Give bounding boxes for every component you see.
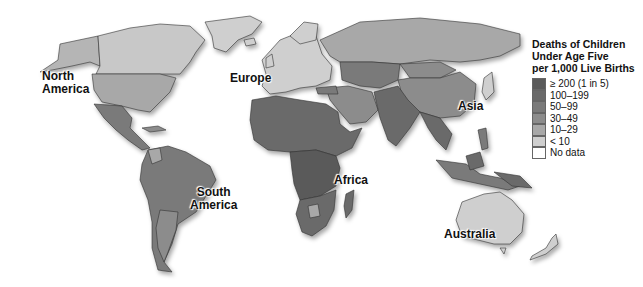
canada	[96, 24, 205, 74]
philippines	[478, 128, 488, 150]
legend-swatch	[532, 124, 546, 136]
label-line: Australia	[444, 228, 495, 241]
legend-item: 30–49	[532, 113, 643, 125]
iceland	[244, 38, 256, 46]
tasmania	[500, 248, 506, 254]
turkey	[316, 86, 338, 94]
legend-title-line: per 1,000 Live Births	[532, 62, 643, 74]
legend-item: < 10	[532, 136, 643, 148]
label-north-america: North America	[42, 70, 89, 96]
label-asia: Asia	[458, 100, 483, 113]
legend-label: 100–199	[550, 90, 589, 101]
legend-title-line: Deaths of Children	[532, 38, 643, 50]
botswana	[308, 204, 320, 218]
legend: Deaths of Children Under Age Five per 1,…	[532, 38, 643, 159]
madagascar	[344, 190, 354, 218]
label-africa: Africa	[334, 174, 368, 187]
greenland	[205, 16, 262, 52]
legend-label: 50–99	[550, 101, 578, 112]
caribbean	[142, 126, 166, 132]
legend-swatch	[532, 78, 546, 90]
legend-item: 10–29	[532, 124, 643, 136]
central-asia	[340, 62, 400, 88]
legend-swatch	[532, 147, 546, 159]
label-line: America	[190, 199, 237, 212]
label-europe: Europe	[230, 72, 271, 85]
legend-item: 50–99	[532, 101, 643, 113]
legend-title: Deaths of Children Under Age Five per 1,…	[532, 38, 643, 74]
legend-label: 10–29	[550, 124, 578, 135]
japan	[482, 72, 494, 100]
label-australia: Australia	[444, 228, 495, 241]
legend-item: ≥ 200 (1 in 5)	[532, 78, 643, 90]
legend-label: No data	[550, 147, 585, 158]
legend-label: < 10	[550, 136, 570, 147]
russia	[320, 18, 520, 64]
label-line: Europe	[230, 72, 271, 85]
label-line: Africa	[334, 174, 368, 187]
se-asia	[420, 112, 452, 150]
label-south-america: South America	[190, 186, 237, 212]
legend-swatch	[532, 101, 546, 113]
new-zealand	[530, 234, 558, 260]
legend-swatch	[532, 90, 546, 102]
legend-item: 100–199	[532, 90, 643, 102]
legend-swatch	[532, 136, 546, 148]
legend-swatch	[532, 113, 546, 125]
alaska	[40, 36, 100, 72]
legend-label: 30–49	[550, 113, 578, 124]
legend-items: ≥ 200 (1 in 5) 100–199 50–99 30–49 10–29…	[532, 78, 643, 159]
label-line: Asia	[458, 100, 483, 113]
legend-title-line: Under Age Five	[532, 50, 643, 62]
legend-item: No data	[532, 147, 643, 159]
label-line: America	[42, 83, 89, 96]
legend-label: ≥ 200 (1 in 5)	[550, 78, 609, 89]
